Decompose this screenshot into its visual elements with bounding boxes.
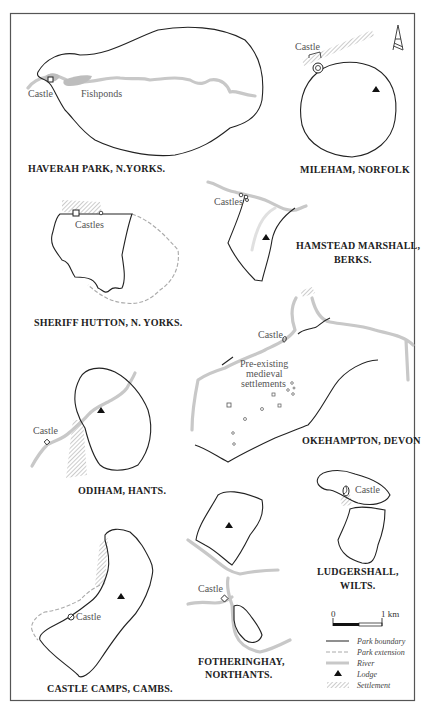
panel-mileham: Castle MILEHAM, NORFOLK xyxy=(295,30,410,175)
castle-marker xyxy=(313,63,323,73)
settlement-hatch xyxy=(300,287,315,297)
legend-lodge-icon xyxy=(334,670,342,676)
label-castle: Castle xyxy=(76,611,102,622)
settlement-hatch xyxy=(62,200,102,214)
river xyxy=(28,75,255,96)
panel-fotheringhay: Castle FOTHERINGHAY, NORTHANTS. xyxy=(188,492,290,680)
label-castle: Castle xyxy=(355,484,381,495)
panel-title: HAVERAH PARK, N.YORKS. xyxy=(28,163,165,174)
castle-marker xyxy=(48,77,53,82)
panel-haverah-park: Castle Fishponds HAVERAH PARK, N.YORKS. xyxy=(28,27,263,174)
panel-castle-camps: Castle CASTLE CAMPS, CAMBS. xyxy=(32,529,173,694)
label-castle: Castle xyxy=(295,41,321,52)
park-boundary xyxy=(301,62,396,157)
scale-bar: 0 1 km xyxy=(331,609,399,626)
panel-title: ODIHAM, HANTS. xyxy=(78,485,166,496)
label-castles: Castles xyxy=(75,219,104,230)
panel-title: OKEHAMPTON, DEVON xyxy=(302,435,421,446)
panel-hamstead-marshall: Castles HAMSTEAD MARSHALL, BERKS. xyxy=(208,182,420,281)
park-boundary xyxy=(40,529,153,677)
label-castle: Castle xyxy=(33,425,59,436)
legend-lodge: Lodge xyxy=(356,670,377,679)
park-boundary xyxy=(195,360,378,462)
panel-title-line2: BERKS. xyxy=(334,254,372,265)
settlement-hatch xyxy=(66,420,87,478)
river xyxy=(188,540,278,574)
legend-river: River xyxy=(356,659,375,668)
panel-title-line1: FOTHERINGHAY, xyxy=(198,656,285,667)
panel-okehampton: Castle Pre-existing medieval settlements… xyxy=(192,287,421,462)
panel-title: SHERIFF HUTTON, N. YORKS. xyxy=(34,317,183,328)
castle-marker xyxy=(73,210,79,216)
panel-title: CASTLE CAMPS, CAMBS. xyxy=(47,683,173,694)
label-castle: Castle xyxy=(198,583,224,594)
scale-end-label: 1 km xyxy=(381,609,399,619)
lodge-icon xyxy=(117,593,125,599)
castle-marker xyxy=(99,211,103,215)
panel-odiham: Castle ODIHAM, HANTS. xyxy=(32,368,166,496)
lodge-icon xyxy=(262,234,270,240)
lodge-icon xyxy=(372,86,380,92)
scale-start-label: 0 xyxy=(331,609,336,619)
river xyxy=(312,298,413,380)
label-castles: Castles xyxy=(214,196,243,207)
legend-park-extension: Park extension xyxy=(356,648,405,657)
panel-title: MILEHAM, NORFOLK xyxy=(300,164,410,175)
label-fishponds: Fishponds xyxy=(81,88,122,99)
legend-park-boundary: Park boundary xyxy=(356,637,406,646)
panel-sheriff-hutton: Castles SHERIFF HUTTON, N. YORKS. xyxy=(34,200,183,328)
label-castle: Castle xyxy=(28,88,54,99)
panel-ludgershall: Castle LUDGERSHALL, WILTS. xyxy=(317,471,399,591)
legend: Park boundary Park extension River Lodge… xyxy=(326,637,406,690)
north-arrow-icon xyxy=(393,25,403,50)
legend-settlement-swatch xyxy=(327,682,349,688)
legend-settlement: Settlement xyxy=(357,681,391,690)
park-boundary xyxy=(338,507,385,563)
panel-title-line1: HAMSTEAD MARSHALL, xyxy=(296,240,420,251)
panel-title-line2: WILTS. xyxy=(340,580,376,591)
lodge-icon xyxy=(225,522,233,528)
label-castle: Castle xyxy=(258,329,284,340)
fishponds xyxy=(63,75,92,86)
label-settlements: settlements xyxy=(241,378,286,389)
deer-parks-map-figure: Castle Fishponds HAVERAH PARK, N.YORKS. … xyxy=(0,0,428,713)
panel-title-line2: NORTHANTS. xyxy=(205,669,273,680)
panel-title-line1: LUDGERSHALL, xyxy=(317,566,399,577)
